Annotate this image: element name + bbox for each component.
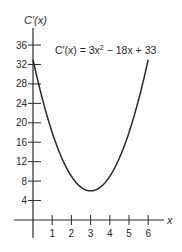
x-ticks: 123456 [49, 215, 151, 239]
curve-c-prime [33, 60, 148, 191]
formula-prefix: C′(x) = 3x [55, 44, 101, 56]
chart: 123456 4812162024283236 C′(x) x C′(x) = … [0, 0, 182, 252]
y-tick-label: 8 [21, 176, 27, 187]
y-tick-label: 28 [16, 78, 28, 89]
x-tick-label: 6 [145, 228, 151, 239]
x-tick-label: 2 [69, 228, 75, 239]
y-tick-label: 24 [16, 98, 28, 109]
y-tick-label: 12 [16, 156, 28, 167]
x-tick-label: 1 [49, 228, 55, 239]
y-tick-label: 20 [16, 117, 28, 128]
y-tick-label: 32 [16, 59, 28, 70]
y-tick-label: 16 [16, 137, 28, 148]
x-tick-label: 3 [88, 228, 94, 239]
formula-suffix: − 18x + 33 [104, 44, 157, 56]
y-ticks: 4812162024283236 [16, 40, 41, 207]
x-tick-label: 5 [126, 228, 132, 239]
y-axis-title: C′(x) [24, 14, 47, 26]
x-tick-label: 4 [107, 228, 113, 239]
formula-annotation: C′(x) = 3x2 − 18x + 33 [55, 44, 156, 56]
x-axis-title: x [166, 214, 173, 226]
y-tick-label: 36 [16, 40, 28, 51]
y-tick-label: 4 [21, 195, 27, 206]
